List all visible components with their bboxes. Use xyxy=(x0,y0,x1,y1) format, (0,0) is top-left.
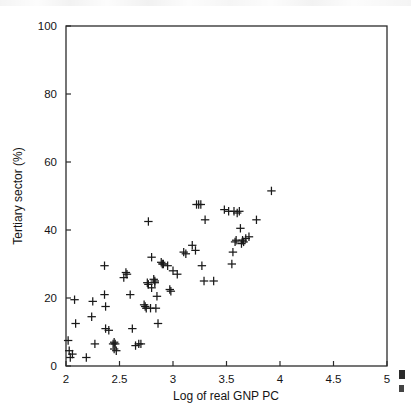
y-tick-label: 0 xyxy=(51,360,57,372)
plot-frame xyxy=(66,26,387,366)
y-tick-label: 60 xyxy=(44,156,57,168)
x-tick-label: 2 xyxy=(63,373,69,385)
scatter-plot-figure: 020406080100 22.533.544.55 Log of real G… xyxy=(0,0,411,417)
y-tick-label: 80 xyxy=(44,88,57,100)
x-axis-tick-labels: 22.533.544.55 xyxy=(63,373,390,385)
x-axis-title: Log of real GNP PC xyxy=(173,389,279,403)
x-tick-label: 3 xyxy=(170,373,176,385)
x-tick-label: 4 xyxy=(277,373,284,385)
x-tick-label: 5 xyxy=(384,373,390,385)
y-tick-label: 100 xyxy=(38,20,57,32)
y-tick-label: 20 xyxy=(44,292,57,304)
x-tick-label: 2.5 xyxy=(112,373,128,385)
y-tick-label: 40 xyxy=(44,224,57,236)
y-axis-title: Tertiary sector (%) xyxy=(11,147,25,244)
x-tick-label: 4.5 xyxy=(326,373,342,385)
chart-canvas: 020406080100 22.533.544.55 Log of real G… xyxy=(0,0,411,417)
y-axis-tick-labels: 020406080100 xyxy=(38,20,57,372)
x-tick-label: 3.5 xyxy=(219,373,235,385)
